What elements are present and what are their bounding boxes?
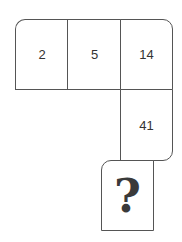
cell-value: 14 [139, 47, 153, 62]
cell-1: 2 [15, 19, 68, 90]
cell-2: 5 [67, 19, 121, 90]
cell-4: 41 [120, 89, 173, 161]
cell-3: 14 [120, 19, 173, 90]
cell-value: 41 [139, 118, 153, 133]
unknown-cell: ? [101, 160, 154, 231]
cell-value: 2 [38, 47, 45, 62]
cell-value: 5 [91, 47, 98, 62]
question-mark-icon: ? [114, 173, 141, 219]
